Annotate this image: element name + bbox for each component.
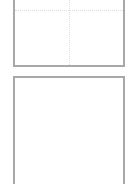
image-panel-bottom[interactable] — [13, 76, 125, 184]
image-panel-top[interactable] — [13, 0, 125, 67]
canvas — [0, 0, 134, 184]
vertical-guide-line — [69, 0, 70, 65]
